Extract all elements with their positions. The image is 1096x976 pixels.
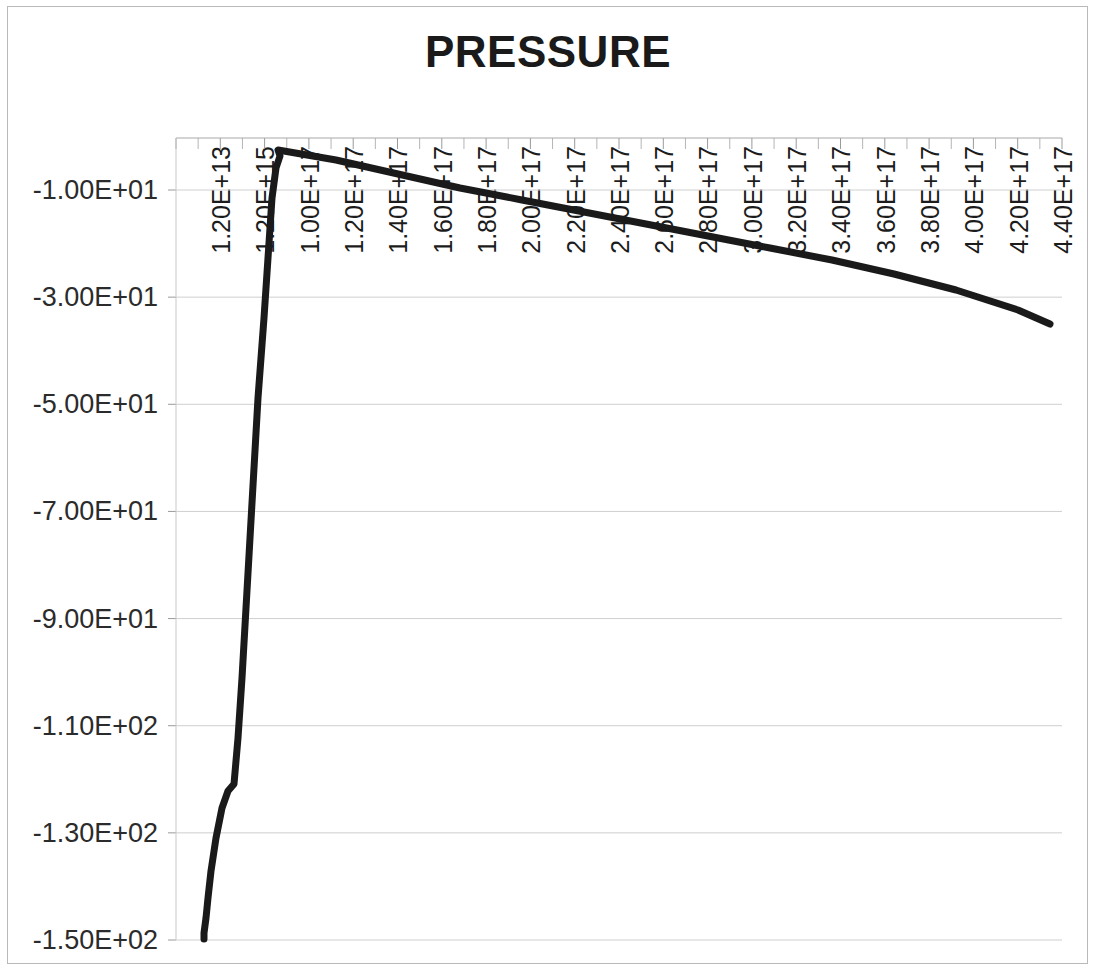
y-axis-tick-label: -5.00E+01 — [33, 391, 158, 418]
y-axis-tick-label: -9.00E+01 — [33, 605, 158, 632]
y-axis-tick-label: -1.10E+02 — [33, 712, 158, 739]
y-axis-tick-label: -1.30E+02 — [33, 819, 158, 846]
y-axis-tick-label: -7.00E+01 — [33, 498, 158, 525]
pressure-series-line — [204, 150, 1050, 939]
y-axis-labels: -1.00E+01-3.00E+01-5.00E+01-7.00E+01-9.0… — [0, 0, 176, 976]
plot-svg — [176, 138, 1062, 940]
plot-area — [176, 138, 1062, 940]
y-axis-tick-label: -3.00E+01 — [33, 284, 158, 311]
plot-border — [176, 138, 1062, 940]
y-axis-tick-label: -1.50E+02 — [33, 927, 158, 954]
y-axis-tick-label: -1.00E+01 — [33, 177, 158, 204]
axis-ticks — [176, 138, 1062, 149]
pressure-chart: PRESSURE -1.00E+01-3.00E+01-5.00E+01-7.0… — [0, 0, 1096, 976]
gridlines — [168, 190, 1062, 940]
